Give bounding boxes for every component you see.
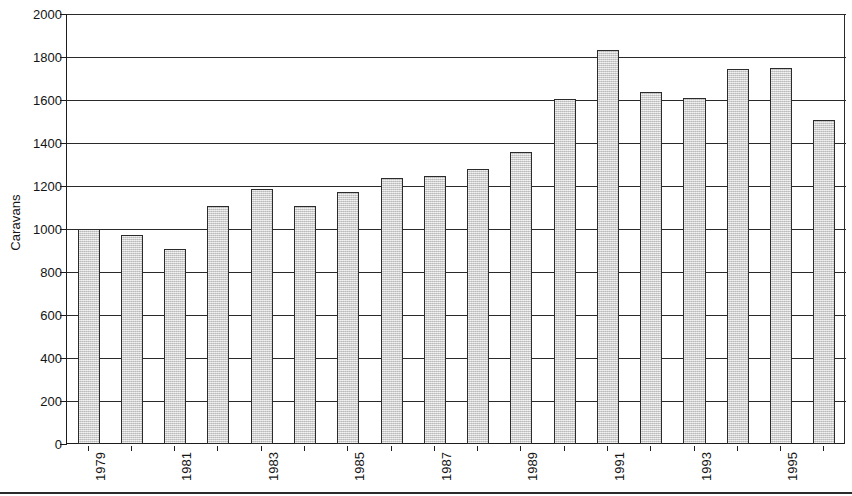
x-axis-tick-mark bbox=[737, 446, 738, 451]
bar-chart: Caravans 0200400600800100012001400160018… bbox=[0, 0, 852, 496]
x-axis-tick-label: 1995 bbox=[786, 452, 799, 481]
y-axis-tick-label: 1600 bbox=[28, 94, 62, 107]
bar bbox=[683, 98, 705, 444]
x-axis-tick-label: 1985 bbox=[353, 452, 366, 481]
y-axis-tick-mark bbox=[60, 229, 67, 230]
x-axis-tick-mark bbox=[520, 446, 521, 451]
y-axis-tick-labels: 0200400600800100012001400160018002000 bbox=[28, 0, 62, 460]
x-axis-tick-label: 1981 bbox=[180, 452, 193, 481]
bar bbox=[207, 206, 229, 444]
y-axis-tick-label: 1200 bbox=[28, 180, 62, 193]
bottom-rule bbox=[0, 492, 852, 494]
x-axis-tick-mark bbox=[347, 446, 348, 451]
y-axis-tick-mark bbox=[60, 358, 67, 359]
x-axis-tick-label: 1991 bbox=[613, 452, 626, 481]
bar bbox=[251, 189, 273, 444]
x-axis-tick-mark bbox=[823, 446, 824, 451]
y-axis-tick-mark bbox=[60, 444, 67, 445]
y-axis-tick-mark bbox=[60, 186, 67, 187]
x-axis-tick-mark bbox=[174, 446, 175, 451]
x-axis-tick-mark bbox=[780, 446, 781, 451]
y-axis-tick-mark bbox=[60, 100, 67, 101]
y-axis-tick-label: 0 bbox=[28, 438, 62, 451]
y-axis-tick-label: 400 bbox=[28, 352, 62, 365]
bar bbox=[597, 50, 619, 444]
x-axis-tick-mark bbox=[261, 446, 262, 451]
x-axis-tick-mark bbox=[650, 446, 651, 451]
y-axis-tick-label: 2000 bbox=[28, 8, 62, 21]
x-axis-tick-label: 1983 bbox=[267, 452, 280, 481]
x-axis-tick-mark bbox=[607, 446, 608, 451]
x-axis-tick-mark bbox=[391, 446, 392, 451]
x-axis-tick-mark bbox=[131, 446, 132, 451]
y-axis-title-label: Caravans bbox=[8, 194, 23, 250]
y-axis-tick-label: 200 bbox=[28, 395, 62, 408]
bar bbox=[640, 92, 662, 444]
x-axis-tick-mark bbox=[217, 446, 218, 451]
bar bbox=[727, 69, 749, 444]
x-axis-tick-mark bbox=[477, 446, 478, 451]
bar bbox=[121, 235, 143, 444]
x-axis-tick-labels: 197919811983198519871989199119931995 bbox=[66, 446, 845, 496]
bar bbox=[78, 229, 100, 444]
bar bbox=[337, 192, 359, 444]
bar bbox=[381, 178, 403, 444]
y-axis-tick-label: 1800 bbox=[28, 51, 62, 64]
y-axis-tick-label: 1400 bbox=[28, 137, 62, 150]
x-axis-tick-label: 1993 bbox=[700, 452, 713, 481]
x-axis-tick-mark bbox=[304, 446, 305, 451]
bar bbox=[424, 176, 446, 444]
bar bbox=[554, 99, 576, 444]
x-axis-tick-label: 1979 bbox=[94, 452, 107, 481]
y-axis-title: Caravans bbox=[0, 0, 30, 444]
y-axis-tick-mark bbox=[60, 14, 67, 15]
y-axis-tick-mark bbox=[60, 272, 67, 273]
y-axis-tick-mark bbox=[60, 143, 67, 144]
y-axis-tick-label: 600 bbox=[28, 309, 62, 322]
bar bbox=[770, 68, 792, 444]
bar bbox=[467, 169, 489, 444]
x-axis-tick-label: 1989 bbox=[526, 452, 539, 481]
bar bbox=[813, 120, 835, 444]
y-axis-tick-mark bbox=[60, 57, 67, 58]
y-axis-tick-label: 1000 bbox=[28, 223, 62, 236]
plot-area bbox=[66, 14, 845, 444]
bar bbox=[294, 206, 316, 444]
y-axis-tick-mark bbox=[60, 401, 67, 402]
bar bbox=[164, 249, 186, 444]
y-axis-tick-label: 800 bbox=[28, 266, 62, 279]
x-axis-tick-label: 1987 bbox=[440, 452, 453, 481]
x-axis-tick-mark bbox=[564, 446, 565, 451]
x-axis-tick-mark bbox=[434, 446, 435, 451]
bars-layer bbox=[67, 14, 846, 444]
y-axis-tick-mark bbox=[60, 315, 67, 316]
bar bbox=[510, 152, 532, 444]
x-axis-tick-mark bbox=[694, 446, 695, 451]
x-axis-tick-mark bbox=[88, 446, 89, 451]
